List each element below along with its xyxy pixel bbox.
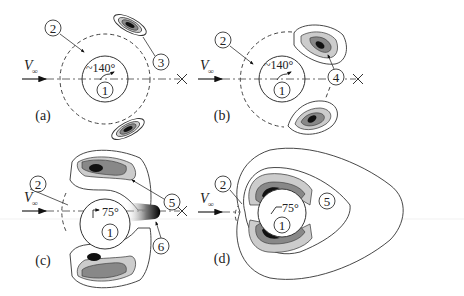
- svg-text:5: 5: [169, 195, 176, 210]
- vortex-bottom: [109, 114, 147, 143]
- panel-caption: (d): [214, 251, 231, 267]
- svg-text:2: 2: [50, 21, 57, 36]
- svg-text:1: 1: [102, 83, 109, 98]
- panel-caption: (a): [35, 108, 51, 124]
- svg-text:1: 1: [279, 83, 286, 98]
- svg-text:75°: 75°: [282, 201, 299, 215]
- svg-text:∞: ∞: [208, 67, 214, 76]
- vortex-top: [111, 10, 149, 39]
- panel-d: V ∞ 75° 2 5 1 (d): [198, 148, 403, 279]
- svg-text:5: 5: [324, 194, 331, 209]
- svg-text:2: 2: [35, 177, 42, 192]
- panel-caption: (b): [214, 108, 231, 124]
- vortex-top: [294, 25, 346, 64]
- svg-text:75°: 75°: [102, 205, 119, 219]
- svg-text:4: 4: [333, 70, 340, 85]
- svg-text:∞: ∞: [32, 199, 38, 208]
- svg-text:6: 6: [158, 239, 165, 254]
- dashed-boundary: [62, 193, 66, 231]
- svg-text:1: 1: [107, 225, 114, 240]
- svg-text:3: 3: [158, 55, 165, 70]
- vortex-diagram: V ∞ ~140° 2 3 1 (a): [0, 0, 464, 296]
- svg-text:~140°: ~140°: [264, 58, 293, 72]
- angle-label: ~140°: [86, 61, 115, 75]
- velocity-subscript: ∞: [32, 67, 38, 76]
- svg-text:1: 1: [279, 218, 286, 233]
- panel-b: V ∞ ~140° 2 4 1 (b): [198, 25, 363, 134]
- svg-text:2: 2: [220, 177, 227, 192]
- svg-text:∞: ∞: [208, 200, 214, 209]
- wake-region: [125, 202, 160, 222]
- svg-text:2: 2: [220, 33, 227, 48]
- panel-caption: (c): [35, 253, 51, 269]
- vortex-bottom: [288, 101, 337, 134]
- panel-a: V ∞ ~140° 2 3 1 (a): [22, 10, 187, 143]
